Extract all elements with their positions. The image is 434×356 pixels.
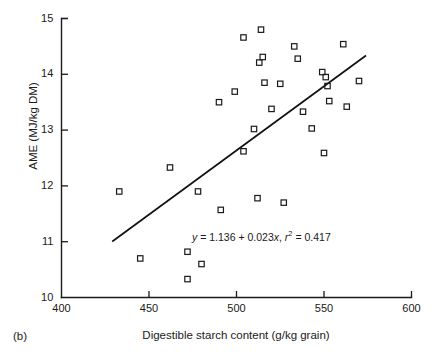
figure-panel-b: 101112131415 400450500550600 AME (MJ/kg … (0, 0, 434, 356)
scatter-point (251, 126, 256, 131)
scatter-point (117, 189, 122, 194)
scatter-point (216, 100, 221, 105)
x-tick-label: 450 (129, 303, 169, 314)
scatter-point (199, 261, 204, 266)
y-tick-label: 11 (28, 236, 54, 247)
scatter-point (269, 106, 274, 111)
scatter-point (260, 54, 265, 59)
scatter-point (262, 80, 267, 85)
panel-label: (b) (13, 330, 27, 342)
x-tick-marks (149, 291, 324, 298)
scatter-point (218, 207, 223, 212)
x-axis-title: Digestible starch content (g/kg grain) (61, 329, 411, 341)
scatter-point (295, 56, 300, 61)
y-tick-label: 10 (28, 292, 54, 303)
scatter-point (321, 150, 326, 155)
scatter-point (241, 35, 246, 40)
scatter-point (292, 44, 297, 49)
scatter-point (185, 276, 190, 281)
scatter-point (185, 249, 190, 254)
y-axis-title: AME (MJ/kg DM) (27, 46, 39, 206)
x-tick-label: 550 (304, 303, 344, 314)
scatter-point (167, 165, 172, 170)
scatter-point (257, 60, 262, 65)
x-tick-label: 400 (42, 303, 82, 314)
data-point-markers (117, 27, 362, 282)
equation-body: = 1.136 + 0.023 (197, 231, 273, 243)
scatter-point (255, 195, 260, 200)
scatter-point (195, 189, 200, 194)
scatter-point (281, 200, 286, 205)
scatter-point (138, 256, 143, 261)
scatter-point (300, 109, 305, 114)
scatter-point (278, 81, 283, 86)
scatter-point (356, 78, 361, 83)
scatter-point (232, 89, 237, 94)
regression-equation-annotation: y = 1.136 + 0.023x, r2 = 0.417 (192, 229, 331, 243)
scatter-point (341, 41, 346, 46)
x-tick-label: 600 (392, 303, 432, 314)
x-tick-label: 500 (217, 303, 257, 314)
equation-r-value: = 0.417 (293, 231, 331, 243)
scatter-point (309, 126, 314, 131)
y-tick-marks (62, 19, 69, 242)
scatter-point (241, 149, 246, 154)
scatter-point (344, 104, 349, 109)
y-tick-label: 15 (28, 13, 54, 24)
scatter-point (327, 98, 332, 103)
scatter-point (258, 27, 263, 32)
